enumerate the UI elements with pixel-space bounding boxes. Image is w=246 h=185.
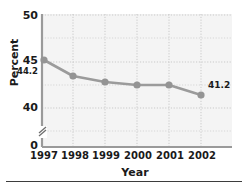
- x-tick-2002: 2002: [182, 150, 222, 161]
- line-chart-figure: 50 45 44.2 40 0 1997 1998 1999 2000 2001…: [0, 0, 246, 185]
- y-axis-title: Percent: [8, 33, 21, 93]
- axis-break-icon: [38, 126, 47, 138]
- bottom-divider: [6, 181, 242, 182]
- data-point: [101, 78, 108, 85]
- y-tick-40: 40: [0, 101, 38, 114]
- x-axis-title: Year: [38, 166, 232, 179]
- data-label-2002: 41.2: [208, 80, 230, 90]
- y-tick-50: 50: [0, 9, 38, 22]
- data-point: [40, 56, 47, 63]
- data-point: [197, 91, 204, 98]
- data-point: [69, 72, 76, 79]
- data-point: [165, 81, 172, 88]
- data-point: [133, 81, 140, 88]
